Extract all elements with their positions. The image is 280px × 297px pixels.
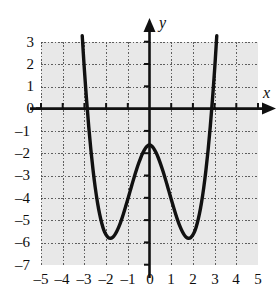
- x-tick-label-m5: –5: [30, 272, 52, 287]
- x-tick-label-5: 5: [247, 272, 269, 287]
- y-tick-label-1: 1: [8, 79, 34, 94]
- x-tick-label-m1: –1: [117, 272, 139, 287]
- y-tick-label-m1: –1: [4, 124, 30, 139]
- y-axis-label: y: [159, 15, 166, 31]
- x-tick-label-4: 4: [225, 272, 247, 287]
- curve-layer: [0, 0, 280, 297]
- y-tick-label-m7: –7: [4, 258, 30, 273]
- x-tick-label-m3: –3: [73, 272, 95, 287]
- y-tick-label-3: 3: [8, 35, 34, 50]
- y-tick-label-m2: –2: [4, 146, 30, 161]
- y-tick-label-2: 2: [8, 57, 34, 72]
- y-tick-label-m6: –6: [4, 235, 30, 250]
- x-tick-label-m2: –2: [95, 272, 117, 287]
- x-tick-label-1: 1: [160, 272, 182, 287]
- y-tick-label-0: 0: [8, 101, 34, 116]
- coordinate-graph-figure: 3 2 1 0 –1 –2 –3 –4 –5 –6 –7 –5 –4 –3 –2…: [0, 0, 280, 297]
- y-tick-label-m3: –3: [4, 168, 30, 183]
- x-tick-label-3: 3: [204, 272, 226, 287]
- function-curve: [82, 36, 217, 238]
- x-tick-label-m4: –4: [51, 272, 73, 287]
- x-tick-label-2: 2: [182, 272, 204, 287]
- x-tick-label-0: 0: [139, 272, 161, 287]
- y-tick-label-m4: –4: [4, 191, 30, 206]
- x-axis-label: x: [263, 85, 270, 101]
- y-tick-label-m5: –5: [4, 213, 30, 228]
